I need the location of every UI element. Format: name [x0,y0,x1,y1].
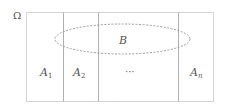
a2-name: A [72,66,81,79]
a1-sub: 1 [48,72,52,80]
an-sub: n [198,72,203,80]
a2-sub: 2 [81,72,85,80]
an-name: A [189,66,198,79]
event-b-label: B [118,34,127,47]
partition-label-a2: A 2 [72,66,85,80]
partition-diagram: Ω B A 1 A 2 ··· A n [0,0,227,109]
a1-name: A [39,66,48,79]
sample-space-rect [27,13,214,102]
partition-label-a1: A 1 [39,66,52,80]
ellipsis-label: ··· [125,66,135,77]
partition-label-an: A n [189,66,203,80]
omega-label: Ω [13,10,21,21]
